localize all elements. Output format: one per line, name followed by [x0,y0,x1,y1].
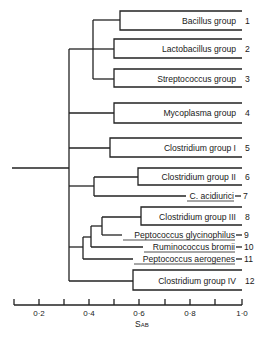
leaf-label-5: Clostridium group I [164,143,236,153]
leaf-number-2: 2 [245,44,250,54]
leaf-label-10: Ruminococcus bromii [153,242,235,252]
dendrogram: Bacillus group Lactobacillus group Strep… [0,0,264,341]
leaf-number-12: 12 [245,276,255,286]
leaf-label-11: Peptococcus aerogenes [143,254,235,264]
leaf-label-8: Clostridium group III [159,212,236,222]
leaf-number-9: 9 [244,230,249,240]
leaf-number-1: 1 [245,16,250,26]
axis-title-sub: AB [141,322,149,328]
leaf-number-6: 6 [245,172,250,182]
leaf-number-10: 10 [244,242,254,252]
leaf-number-4: 4 [245,108,250,118]
leaf-label-9: Peptococcus glycinophilus [134,230,235,240]
axis-title: SAB [135,319,149,329]
leaf-label-6: Clostridium group II [161,172,236,182]
tick-label-1-0: 1·0 [236,309,248,318]
leaf-numbers: 1 2 3 4 5 6 7 8 9 10 11 12 [243,16,255,286]
tick-label-0-8: 0·8 [184,309,196,318]
leaf-labels: Bacillus group Lactobacillus group Strep… [123,16,236,286]
leaf-number-8: 8 [245,212,250,222]
leaf-label-7: C. acidiurici [190,191,235,201]
leaf-number-7: 7 [243,191,248,201]
tick-label-0-4: 0·4 [83,309,95,318]
x-axis: 0·2 0·4 0·6 0·8 1·0 SAB [14,299,248,329]
tick-label-0-2: 0·2 [33,309,45,318]
leaf-label-2: Lactobacillus group [162,44,236,54]
leaf-label-12: Clostridium group IV [158,276,236,286]
leaf-number-11: 11 [244,254,253,264]
tick-label-0-6: 0·6 [133,309,145,318]
leaf-label-1: Bacillus group [182,16,236,26]
leaf-label-3: Streptococcus group [157,74,236,84]
leaf-number-5: 5 [245,143,250,153]
leaf-label-4: Mycoplasma group [163,108,236,118]
leaf-number-3: 3 [245,74,250,84]
